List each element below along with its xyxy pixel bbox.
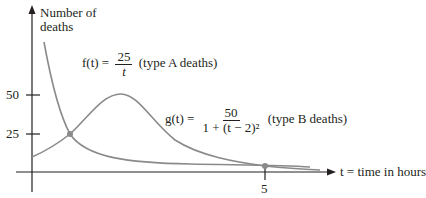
intersection-point-t1 [67,131,73,137]
y-axis-label-line1: Number of [40,6,97,20]
f-formula-label: f(t) = 25 t (type A deaths) [82,50,217,79]
x-axis-arrow-icon [327,169,336,176]
g-denominator: 1 + (t − 2)² [201,121,262,135]
y-tick-label-50: 50 [6,87,19,103]
g-formula-label: g(t) = 50 1 + (t − 2)² (type B deaths) [165,106,347,135]
f-suffix: (type A deaths) [139,55,218,70]
g-suffix: (type B deaths) [268,111,347,126]
y-axis-label-line2: deaths [40,20,97,34]
f-fraction: 25 t [115,50,132,79]
g-fraction: 50 1 + (t − 2)² [201,106,262,135]
y-axis-label: Number of deaths [40,6,97,34]
x-tick-label-5: 5 [261,181,268,197]
f-lhs: f(t) = [82,55,109,70]
y-tick-label-25: 25 [6,126,19,142]
intersection-point-t5 [262,163,268,169]
x-axis-label: t = time in hours [340,165,426,179]
y-axis-arrow-icon [29,5,36,14]
f-numerator: 25 [115,50,132,65]
g-numerator: 50 [223,106,240,121]
g-lhs: g(t) = [165,111,194,126]
f-denominator: t [120,65,128,79]
